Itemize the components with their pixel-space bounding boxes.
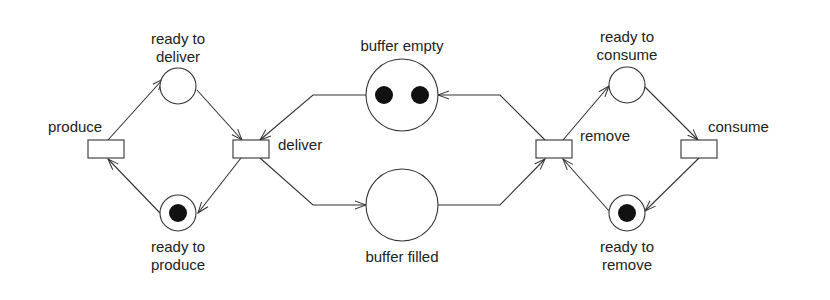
- label-line: ready to: [138, 238, 218, 256]
- label-line: ready to: [587, 238, 667, 256]
- token-icon: [618, 204, 636, 222]
- label-ready-to-remove: ready to remove: [587, 238, 667, 274]
- label-ready-to-consume: ready to consume: [582, 28, 672, 64]
- arc-ready-to-produce-to-produce: [108, 159, 160, 213]
- label-ready-to-produce: ready to produce: [138, 238, 218, 274]
- transition-remove: [536, 140, 572, 158]
- label-buffer-filled: buffer filled: [342, 248, 462, 266]
- label-line: remove: [587, 256, 667, 274]
- transition-consume: [681, 140, 717, 158]
- arc-remove-to-buffer-empty: [438, 95, 545, 140]
- arc-deliver-to-ready-to-produce: [198, 158, 241, 213]
- arc-produce-to-ready-to-deliver: [108, 79, 163, 140]
- label-buffer-empty: buffer empty: [342, 37, 462, 55]
- arc-buffer-empty-to-deliver: [260, 95, 366, 140]
- label-deliver: deliver: [278, 136, 322, 154]
- token-icon: [411, 86, 429, 104]
- transition-deliver: [233, 140, 269, 158]
- place-ready-to-consume: [609, 67, 645, 103]
- arc-buffer-filled-to-remove: [438, 159, 545, 205]
- label-line: consume: [582, 46, 672, 64]
- label-line: ready to: [582, 28, 672, 46]
- arc-ready-to-consume-to-consume: [645, 87, 698, 140]
- label-produce: produce: [48, 118, 102, 136]
- token-icon: [375, 86, 393, 104]
- arc-ready-to-remove-to-remove: [563, 159, 610, 212]
- place-buffer-filled: [366, 169, 438, 241]
- arc-deliver-to-buffer-filled: [260, 158, 366, 205]
- label-ready-to-deliver: ready to deliver: [138, 30, 218, 66]
- arc-consume-to-ready-to-remove: [645, 158, 699, 211]
- label-line: produce: [138, 256, 218, 274]
- label-line: ready to: [138, 30, 218, 48]
- transition-produce: [88, 140, 124, 158]
- label-line: deliver: [138, 48, 218, 66]
- place-ready-to-deliver: [160, 68, 196, 104]
- token-icon: [169, 204, 187, 222]
- label-consume: consume: [708, 118, 769, 136]
- label-remove: remove: [580, 127, 630, 145]
- arc-ready-to-deliver-to-deliver: [197, 90, 242, 140]
